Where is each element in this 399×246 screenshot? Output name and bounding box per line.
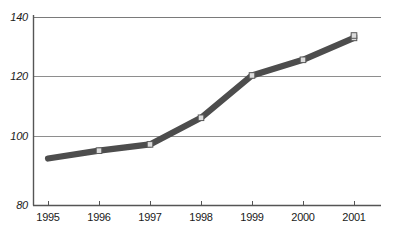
data-series-line — [48, 38, 354, 159]
series-polyline — [48, 38, 354, 159]
line-chart: 140 120 100 80 1995 1996 1997 1998 1999 … — [0, 0, 399, 246]
data-point-1996 — [147, 142, 153, 148]
data-point-2001 — [351, 33, 357, 39]
x-tick-label-2001: 2001 — [332, 211, 376, 223]
x-tick-label-1998: 1998 — [179, 211, 223, 223]
x-tick-label-1996: 1996 — [77, 211, 121, 223]
x-tick-label-2000: 2000 — [281, 211, 325, 223]
x-tick-label-1997: 1997 — [128, 211, 172, 223]
gridlines — [33, 18, 381, 137]
y-tick-label-100: 100 — [2, 130, 28, 142]
data-point-1999 — [300, 57, 306, 63]
data-point-1995 — [96, 148, 102, 154]
y-tick-label-80: 80 — [2, 199, 28, 211]
y-tick-label-120: 120 — [2, 70, 28, 82]
y-tick-label-140: 140 — [2, 11, 28, 23]
chart-canvas — [0, 0, 399, 246]
x-tick-label-1999: 1999 — [230, 211, 274, 223]
x-tick-label-1995: 1995 — [26, 211, 70, 223]
data-point-1997 — [198, 115, 204, 121]
data-point-1998 — [249, 73, 255, 79]
